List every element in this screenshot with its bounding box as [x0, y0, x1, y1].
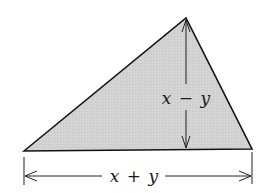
- height-label: x − y: [162, 88, 211, 108]
- base-label: x + y: [110, 166, 159, 186]
- triangle-diagram: x − y x + y: [0, 0, 267, 193]
- triangle-shape: [24, 18, 252, 151]
